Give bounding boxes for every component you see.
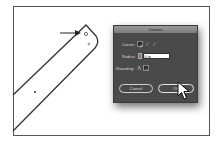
radius-stepper[interactable] xyxy=(138,53,142,59)
center-point xyxy=(34,91,36,93)
cancel-button[interactable]: Cancel xyxy=(119,84,153,93)
pointer-cursor-icon xyxy=(177,81,191,101)
chamfer-corner-icon[interactable]: ∕ xyxy=(151,41,157,47)
corner-control-dot[interactable] xyxy=(88,43,91,46)
corner-row: Corner: ╭ ⁄ ∕ xyxy=(122,41,158,47)
radius-row: Radius: 0 in xyxy=(122,53,170,59)
dialog-title: Corners xyxy=(114,26,197,33)
inverted-round-corner-icon[interactable]: ⁄ xyxy=(144,41,150,47)
corner-label: Corner: xyxy=(122,42,135,47)
rounding-label: Rounding: xyxy=(116,66,134,71)
radius-input[interactable]: 0 in xyxy=(143,53,170,59)
annotation-arrow-icon xyxy=(60,30,81,36)
rounded-bar-shape[interactable] xyxy=(13,25,98,131)
relative-rounding-icon[interactable]: Λ xyxy=(136,65,142,71)
absolute-rounding-icon[interactable]: ∩ xyxy=(143,65,149,71)
rounding-row: Rounding: Λ ∩ xyxy=(116,65,150,71)
round-corner-icon[interactable]: ╭ xyxy=(137,41,143,47)
radius-label: Radius: xyxy=(122,54,136,59)
corner-widget-icon[interactable] xyxy=(84,32,87,35)
